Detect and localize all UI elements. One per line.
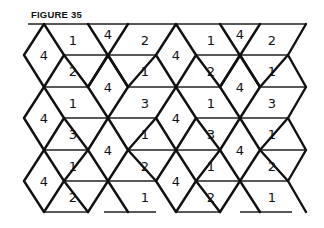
cell-label-diamond: 4 bbox=[104, 80, 112, 95]
cell-label-parallelogram: 1 bbox=[268, 190, 276, 205]
cell-label-parallelogram: 3 bbox=[207, 127, 215, 142]
cell-label-parallelogram: 2 bbox=[141, 159, 149, 174]
cell-label-parallelogram: 1 bbox=[207, 96, 215, 111]
cell-label-diamond: 4 bbox=[40, 48, 48, 63]
cell-label-parallelogram: 3 bbox=[141, 96, 149, 111]
cell-label-parallelogram: 1 bbox=[268, 64, 276, 79]
cell-label-diamond: 4 bbox=[172, 48, 180, 63]
cell-label-parallelogram: 1 bbox=[268, 127, 276, 142]
horizontal-lines bbox=[28, 24, 306, 212]
cell-label-diamond: 4 bbox=[236, 80, 244, 95]
cell-label-diamond: 4 bbox=[172, 174, 180, 189]
cell-label-parallelogram: 1 bbox=[69, 159, 77, 174]
cell-label-parallelogram: 3 bbox=[69, 127, 77, 142]
cell-label-parallelogram: 2 bbox=[207, 64, 215, 79]
cell-label-parallelogram: 2 bbox=[268, 33, 276, 48]
cell-label-diamond: 4 bbox=[40, 174, 48, 189]
cell-label-parallelogram: 1 bbox=[141, 127, 149, 142]
cell-label-triangle: 4 bbox=[104, 27, 112, 42]
tiling-diagram: 444444444444121312213121121312213121 bbox=[0, 0, 324, 228]
cell-label-parallelogram: 2 bbox=[69, 64, 77, 79]
cell-label-parallelogram: 2 bbox=[207, 190, 215, 205]
cell-label-parallelogram: 2 bbox=[141, 33, 149, 48]
cell-label-parallelogram: 1 bbox=[207, 33, 215, 48]
cell-label-parallelogram: 1 bbox=[141, 190, 149, 205]
cell-label-parallelogram: 1 bbox=[207, 159, 215, 174]
cell-label-diamond: 4 bbox=[104, 143, 112, 158]
cell-label-parallelogram: 1 bbox=[69, 96, 77, 111]
cell-label-triangle: 4 bbox=[236, 27, 244, 42]
cell-label-parallelogram: 2 bbox=[69, 190, 77, 205]
cell-label-diamond: 4 bbox=[236, 143, 244, 158]
cell-label-parallelogram: 3 bbox=[268, 96, 276, 111]
cell-label-parallelogram: 2 bbox=[268, 159, 276, 174]
cell-label-diamond: 4 bbox=[40, 111, 48, 126]
cell-label-parallelogram: 1 bbox=[69, 33, 77, 48]
cell-label-diamond: 4 bbox=[172, 111, 180, 126]
right-zigzag-edge bbox=[288, 24, 306, 212]
cell-label-parallelogram: 1 bbox=[141, 64, 149, 79]
